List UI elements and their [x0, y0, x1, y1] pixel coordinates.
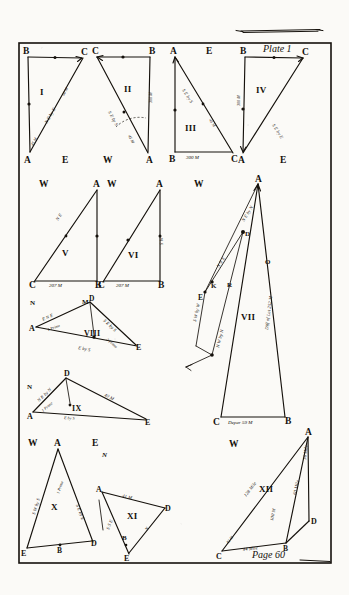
fig10-outside-E: E [92, 438, 98, 448]
fig6-vertex-A: A [156, 179, 163, 189]
fig8-vertex-D: D [89, 294, 95, 303]
fig9-outside-N: N [27, 383, 32, 391]
figure-7: A C B E K R D O W VII Depar 59 M Diff of… [186, 174, 292, 427]
fig7-base-distance: Depar 59 M [227, 420, 253, 425]
plate-title: Plate 1 [262, 43, 292, 54]
fig5-numeral: V [62, 248, 69, 258]
top-decorative-rule [236, 30, 323, 33]
fig3-vertex-B: B [169, 154, 176, 164]
fig4-vertex-B: B [240, 46, 247, 56]
fig10-outside-N: N [101, 451, 108, 459]
fig2-vertex-C: C [92, 46, 99, 56]
fig10-numeral: X [51, 502, 58, 512]
fig3-base-distance: 300 M [186, 155, 200, 160]
fig9-course-3: E by S [63, 415, 75, 421]
fig1-vertex-A: A [24, 155, 31, 165]
fig8-vertex-A: A [29, 324, 35, 333]
fig7-course-2: S W by W [192, 302, 201, 322]
figure-1: B C A E I N E by E 60 M 45 M [23, 46, 88, 165]
fig10-vertex-E: E [21, 549, 26, 558]
fig5-vertex-A: A [93, 179, 100, 189]
fig11-vertex-B: B [122, 534, 127, 542]
fig12-vertex-C: C [216, 552, 222, 561]
fig4-course: S E by E [271, 123, 284, 140]
fig3-hyp-distance: 45 M [208, 118, 217, 128]
figure-5: A C B W V N E 207 M [29, 179, 102, 290]
fig1-vertex-B: B [23, 46, 30, 56]
fig11-course-2: S S E [105, 519, 113, 530]
fig10-vertex-B: B [57, 546, 62, 555]
fig2-vertex-A: A [146, 155, 153, 165]
fig6-numeral: VI [128, 250, 139, 260]
figure-12: A C B D W XII 128 Mile 42 M 44 Mile 100 … [216, 427, 317, 561]
fig7-vertex-R: R [227, 281, 233, 289]
fig12-outside-W: W [229, 439, 239, 449]
fig11-vertex-A: A [96, 485, 102, 494]
fig12-course-3: 100 M [269, 507, 277, 521]
figure-9: A D E N IX N E by N 1 Prime 40 M E by S [27, 369, 150, 427]
fig1-hyp-distance: 60 M [61, 86, 70, 96]
fig6-vertex-C: C [98, 280, 105, 290]
fig7-vertex-O: O [265, 258, 271, 266]
figure-4: B C A E IV S E by E 300 M Plate 1 [236, 43, 309, 165]
fig1-course: N E by E [43, 107, 57, 125]
page-caption: Page 60 [251, 549, 285, 560]
fig6-vertex-B: B [158, 280, 165, 290]
fig12-course-4: 60 Mile [292, 480, 300, 496]
fig7-vertex-K: K [211, 282, 217, 290]
fig8-numeral: VIII [84, 329, 100, 338]
fig7-vertex-C: C [213, 417, 220, 427]
bottom-rule-flourish [300, 560, 330, 562]
fig6-course: S W [159, 236, 164, 245]
fig4-outside-E: E [280, 155, 286, 165]
fig2-course: S E by S [107, 110, 119, 127]
plate-page: B C A E I N E by E 60 M 45 M C B A W II … [0, 0, 349, 595]
fig4-vertex-A: A [238, 155, 245, 165]
fig2-hyp-distance: 45 M [127, 134, 136, 144]
fig10-course-1: 1 Prime [55, 480, 64, 494]
fig1-numeral: I [40, 87, 44, 97]
figure-8: A D M E N VIII E N E S E by S 1 Prime 2 … [29, 294, 141, 352]
fig12-numeral: XII [259, 484, 274, 494]
fig8-outside-N: N [30, 299, 35, 307]
fig9-vertex-E: E [145, 418, 150, 427]
fig7-vertex-D: D [245, 230, 250, 238]
fig9-vertex-A: A [27, 412, 33, 421]
figure-3: A B C E III S E by S 45 M 300 M [169, 46, 238, 164]
fig8-course-4: E by S [77, 345, 92, 353]
fig5-outside-W: W [39, 179, 49, 189]
fig6-outside-W: W [107, 179, 117, 189]
figure-2: C B A W II S E by S 45 M 300 M [92, 46, 156, 165]
fig12-course-0: 128 Mile [243, 481, 258, 498]
fig4-leg-distance: 300 M [236, 95, 241, 106]
fig2-outside-W: W [103, 155, 113, 165]
fig6-base-distance: 207 M [116, 283, 130, 288]
fig1-vertex-C: C [81, 47, 88, 57]
fig2-vertex-B: B [149, 46, 156, 56]
fig8-course-3: 2 Prime [105, 337, 118, 349]
fig2-numeral: II [124, 84, 132, 94]
fig11-numeral: XI [127, 511, 138, 521]
fig8-vertex-E: E [136, 343, 141, 352]
fig7-diff-lat: Diff of Lat 252 M [264, 295, 273, 331]
fig4-numeral: IV [256, 85, 267, 95]
fig5-vertex-C: C [29, 280, 36, 290]
figure-11: A D E B XI 41 M N S S E [96, 485, 171, 563]
fig8-vertex-M: M [82, 298, 89, 306]
fig10-vertex-A: A [54, 438, 61, 448]
fig10-course-2: S E by E [75, 504, 86, 521]
fig3-outside-E: E [206, 46, 212, 56]
fig3-vertex-C: C [231, 154, 238, 164]
fig7-vertex-A: A [255, 174, 262, 184]
fig3-course: S E by S [181, 88, 194, 105]
plate-engraving: B C A E I N E by E 60 M 45 M C B A W II … [0, 0, 349, 595]
figure-6: A C B W VI S W 207 M [98, 179, 165, 290]
fig1-outside-E: E [62, 155, 68, 165]
fig7-vertex-E: E [198, 293, 203, 302]
fig7-vertex-B: B [285, 416, 292, 426]
fig2-leg-distance: 300 M [148, 92, 153, 103]
fig4-vertex-C: C [302, 47, 309, 57]
fig12-course-5: 36 Mile [302, 445, 309, 460]
fig7-numeral: VII [241, 312, 256, 322]
fig12-vertex-D: D [311, 517, 317, 526]
